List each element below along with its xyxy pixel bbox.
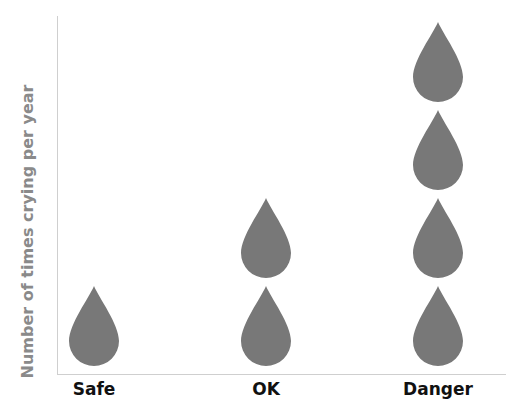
water-drop-icon <box>241 286 291 366</box>
x-axis-line <box>57 374 506 375</box>
water-drop-icon <box>413 110 463 190</box>
y-axis-label: Number of times crying per year <box>18 82 37 382</box>
water-drop-icon <box>69 286 119 366</box>
x-label-safe: Safe <box>34 379 154 399</box>
water-drop-icon <box>413 22 463 102</box>
x-label-danger: Danger <box>378 379 498 399</box>
water-drop-icon <box>413 286 463 366</box>
x-label-ok: OK <box>206 379 326 399</box>
water-drop-icon <box>241 198 291 278</box>
y-axis-line <box>57 16 58 375</box>
water-drop-icon <box>413 198 463 278</box>
